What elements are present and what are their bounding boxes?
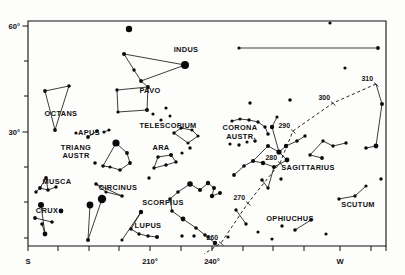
- star-marker: [308, 153, 311, 156]
- star-marker: [321, 139, 324, 142]
- constellation-line: [124, 54, 185, 65]
- x-axis-label-210: 210°: [142, 257, 158, 266]
- star-marker: [94, 182, 98, 186]
- star-marker: [147, 176, 150, 179]
- star-marker: [196, 134, 199, 137]
- star-marker: [188, 146, 191, 149]
- star-marker: [164, 106, 167, 109]
- y-axis-label-60: 60°: [9, 22, 20, 31]
- galactic-longitude-label: 260: [207, 234, 219, 241]
- star-marker: [181, 61, 189, 69]
- star-marker: [181, 217, 186, 222]
- star-marker: [139, 210, 143, 214]
- star-marker: [226, 235, 229, 238]
- star-marker: [128, 161, 132, 165]
- star-marker: [108, 165, 111, 168]
- constellation-label: CRUX: [36, 206, 58, 215]
- star-marker: [242, 164, 246, 168]
- star-marker: [244, 222, 247, 225]
- constellation-label: LUPUS: [135, 221, 162, 230]
- constellation-label: CORONA: [223, 123, 258, 132]
- constellation-line: [234, 166, 244, 175]
- star-marker: [120, 238, 123, 241]
- star-marker: [234, 208, 237, 211]
- constellation-line: [188, 136, 198, 143]
- constellation-label: SAGITTARIUS: [281, 163, 334, 172]
- galactic-longitude-label: 270: [234, 194, 246, 201]
- star-marker: [272, 165, 276, 169]
- star-marker: [59, 209, 64, 214]
- constellation-label: APUS: [78, 128, 100, 137]
- x-axis-label-240: 240°: [204, 257, 220, 266]
- star-marker: [137, 232, 140, 235]
- star-marker: [156, 155, 160, 159]
- galactic-longitude-label: 290: [279, 122, 291, 129]
- star-marker: [266, 186, 269, 189]
- star-marker: [38, 186, 42, 190]
- constellation-line: [117, 90, 118, 112]
- constellation-line: [55, 86, 69, 130]
- constellation-label: PAVO: [139, 86, 160, 95]
- constellation-line: [333, 143, 346, 146]
- star-marker: [33, 216, 37, 220]
- constellation-line: [174, 133, 188, 143]
- star-marker: [169, 115, 172, 118]
- star-marker: [261, 161, 265, 165]
- star-marker: [210, 194, 214, 198]
- star-marker: [87, 202, 94, 209]
- star-marker: [364, 146, 368, 150]
- star-marker: [98, 195, 106, 203]
- constellation-label: AUSTR: [62, 151, 90, 160]
- star-marker: [101, 164, 105, 168]
- star-marker: [353, 194, 356, 197]
- star-marker: [284, 144, 288, 148]
- star-marker: [155, 235, 159, 239]
- star-marker: [343, 66, 346, 69]
- star-marker: [275, 115, 278, 118]
- star-marker: [126, 26, 132, 32]
- galactic-longitude-label: 300: [319, 94, 331, 101]
- constellation-label: AUSTR.: [226, 132, 256, 141]
- star-marker: [238, 117, 241, 120]
- star-marker: [379, 177, 382, 180]
- constellation-line: [154, 165, 166, 168]
- star-marker: [115, 88, 118, 91]
- constellation-line: [45, 86, 69, 91]
- star-marker: [132, 68, 135, 71]
- constellation-label: CIRCINUS: [99, 183, 138, 192]
- star-marker: [295, 139, 299, 143]
- star-marker: [139, 79, 143, 83]
- star-marker: [256, 230, 259, 233]
- star-marker: [228, 142, 231, 145]
- star-marker: [152, 166, 155, 169]
- star-marker: [266, 144, 270, 148]
- star-marker: [266, 132, 270, 136]
- star-marker: [280, 224, 283, 227]
- star-marker: [270, 237, 273, 240]
- star-marker: [169, 153, 173, 157]
- star-marker: [122, 52, 126, 56]
- constellation-label: OPHIUCHUS: [266, 214, 314, 223]
- star-marker: [187, 181, 193, 187]
- constellation-line: [141, 65, 185, 81]
- star-marker: [186, 141, 189, 144]
- star-marker: [270, 125, 274, 129]
- star-marker: [180, 234, 183, 237]
- star-marker: [46, 188, 50, 192]
- star-marker: [172, 131, 175, 134]
- star-marker: [102, 130, 105, 133]
- star-marker: [237, 46, 240, 49]
- star-marker: [34, 190, 37, 193]
- star-marker: [180, 151, 183, 154]
- star-marker: [151, 112, 154, 115]
- star-marker: [170, 209, 174, 213]
- star-marker: [288, 98, 292, 102]
- constellation-label: MUSCA: [43, 177, 72, 186]
- star-marker: [213, 241, 217, 245]
- star-marker: [206, 181, 210, 185]
- star-marker: [125, 151, 129, 155]
- star-marker: [93, 161, 97, 165]
- star-marker: [303, 134, 306, 137]
- star-marker: [212, 186, 216, 190]
- star-marker: [276, 149, 281, 154]
